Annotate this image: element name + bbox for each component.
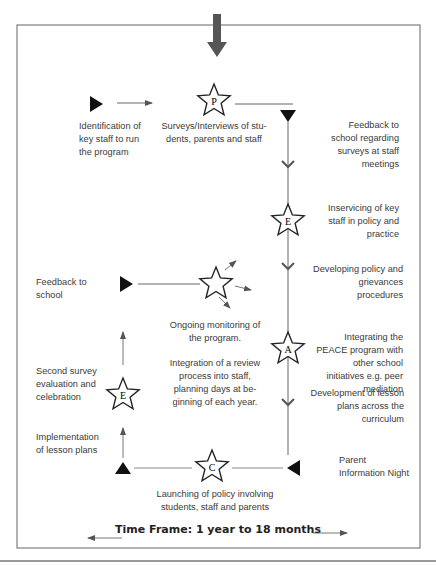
time-frame-label: Time Frame: 1 year to 18 months (0, 523, 436, 536)
svg-text:P: P (211, 96, 217, 107)
triangle-left-marker-icon (287, 460, 300, 476)
star-p-icon: P (198, 84, 230, 115)
label-implementation: Implementation of lesson plans (36, 431, 98, 457)
label-feedback-surveys: Feedback to school regarding surveys at … (322, 119, 399, 171)
triangle-right-marker-icon (90, 96, 103, 112)
label-identification: Identification of key staff to run the p… (79, 120, 141, 159)
label-feedback-school: Feedback to school (36, 276, 98, 302)
label-launching: Launching of policy involving students, … (150, 488, 280, 514)
triangle-right-marker-icon (120, 276, 133, 292)
svg-text:C: C (209, 462, 216, 473)
svg-text:A: A (284, 344, 292, 355)
radiating-arrow (219, 297, 230, 308)
label-parent-night: Parent Information Night (339, 454, 409, 480)
triangle-down-marker-icon (280, 110, 296, 122)
label-integration-review: Integration of a review process into sta… (168, 357, 262, 409)
radiating-arrow (225, 261, 236, 270)
star-monitoring-icon (200, 267, 232, 298)
triangle-up-marker-icon (115, 462, 131, 474)
label-second-survey: Second survey evaluation and celebration (36, 365, 98, 404)
label-surveys: Surveys/Interviews of stu- dents, parent… (148, 120, 280, 146)
label-ongoing-monitoring: Ongoing monitoring of the program. (168, 319, 262, 345)
label-development-lessons: Development of lesson plans across the c… (305, 387, 404, 426)
star-c-icon: C (196, 450, 228, 481)
svg-text:E: E (285, 216, 291, 227)
label-inservicing: Inservicing of key staff in policy and p… (325, 202, 399, 241)
radiating-arrow (235, 286, 251, 290)
star-e2-icon: E (107, 378, 139, 409)
entry-arrow-icon (207, 14, 227, 57)
svg-text:E: E (120, 390, 126, 401)
label-developing-policy: Developing policy and grievances procedu… (312, 263, 403, 302)
